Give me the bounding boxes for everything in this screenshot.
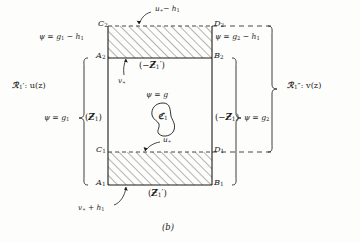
corner-label-c2: C2 bbox=[98, 19, 108, 29]
operator-label-left-side: (Ƶ1) bbox=[85, 113, 102, 122]
corner-label-b1: B1 bbox=[214, 178, 224, 188]
bottom-hatched-strip bbox=[108, 152, 212, 185]
operator-label-bottom-strip: (Ƶ1′) bbox=[148, 189, 167, 198]
label-bottom-arrow: v∗ + h1 bbox=[78, 204, 105, 212]
label-inner-v-star: v∗ bbox=[118, 77, 126, 85]
operator-label-right-side: (−Ƶ1) bbox=[215, 113, 239, 122]
region-label-left: ℛ1′: u(z) bbox=[12, 81, 46, 91]
label-inner-u-star: u∗ bbox=[163, 136, 171, 144]
corner-label-c1: C1 bbox=[96, 145, 106, 155]
boundary-condition-top-left: ψ = g1 − h1 bbox=[39, 33, 84, 41]
curve-label-c1: ℭ1 bbox=[158, 112, 168, 122]
arrow-top-u-star-minus-h1 bbox=[137, 12, 151, 24]
corner-label-a1: A1 bbox=[96, 178, 106, 188]
corner-label-d2: D2 bbox=[214, 19, 224, 29]
boundary-condition-center: ψ = g bbox=[146, 91, 168, 99]
figure-caption: (b) bbox=[162, 223, 174, 231]
dashed-extension-lines bbox=[212, 26, 272, 152]
arrow-inner-u-star bbox=[144, 142, 160, 151]
operator-label-top-strip: (−Ƶ1′) bbox=[139, 61, 165, 70]
brace-right-outer-region bbox=[268, 26, 277, 152]
figure-canvas: u∗− h1 C2 D2 ψ = g1 − h1 ψ = g2 − h1 A2 … bbox=[0, 0, 360, 243]
top-hatched-strip bbox=[108, 26, 212, 58]
arrow-top-op: − h bbox=[163, 4, 176, 13]
arrow-inner-v-star bbox=[124, 59, 128, 75]
boundary-condition-top-right: ψ = g2 − h1 bbox=[215, 33, 260, 41]
label-top-arrow: u∗− h1 bbox=[155, 5, 180, 13]
corner-label-b2: B2 bbox=[214, 51, 224, 61]
region-label-right: ℛ1″: v(z) bbox=[287, 81, 321, 91]
corner-label-d1: D1 bbox=[214, 145, 224, 155]
corner-label-a2: A2 bbox=[96, 51, 106, 61]
arrow-bottom-v-star-plus-h1 bbox=[114, 187, 128, 205]
boundary-condition-right: ψ = g2 bbox=[244, 114, 269, 122]
boundary-condition-left: ψ = g1 bbox=[44, 114, 69, 122]
arrow-top-op-sub: 1 bbox=[177, 7, 180, 13]
